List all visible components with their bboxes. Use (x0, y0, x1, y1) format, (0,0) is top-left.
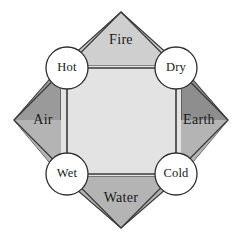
quality-label-hot: Hot (57, 60, 77, 74)
diagram-canvas: Fire Air Earth Water Hot Dry Wet Cold (0, 0, 242, 242)
quality-label-cold: Cold (163, 166, 189, 180)
quality-label-wet: Wet (57, 166, 78, 180)
element-label-fire: Fire (109, 32, 133, 47)
element-label-water: Water (104, 190, 139, 205)
element-label-earth: Earth (183, 112, 215, 127)
quality-label-dry: Dry (166, 60, 187, 74)
element-label-air: Air (33, 112, 53, 127)
four-elements-diagram: Fire Air Earth Water Hot Dry Wet Cold (0, 0, 242, 242)
